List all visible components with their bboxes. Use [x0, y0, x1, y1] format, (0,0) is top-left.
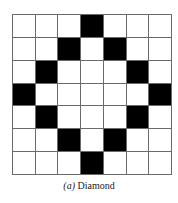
filled-cell [127, 61, 150, 84]
filled-cell [127, 106, 150, 129]
filled-cell [104, 38, 127, 61]
filled-cell [58, 38, 81, 61]
empty-cell [36, 152, 59, 175]
empty-cell [58, 15, 81, 38]
filled-cell [58, 129, 81, 152]
caption-text: Diamond [77, 180, 114, 191]
empty-cell [149, 152, 172, 175]
empty-cell [13, 152, 36, 175]
caption-label: (a) [63, 180, 75, 191]
empty-cell [81, 129, 104, 152]
empty-cell [58, 61, 81, 84]
empty-cell [36, 84, 59, 107]
empty-cell [104, 15, 127, 38]
empty-cell [149, 15, 172, 38]
empty-cell [13, 129, 36, 152]
filled-cell [36, 61, 59, 84]
empty-cell [13, 15, 36, 38]
empty-cell [104, 152, 127, 175]
filled-cell [81, 15, 104, 38]
diamond-grid [12, 14, 172, 175]
empty-cell [36, 129, 59, 152]
filled-cell [104, 129, 127, 152]
empty-cell [13, 38, 36, 61]
empty-cell [149, 106, 172, 129]
empty-cell [81, 38, 104, 61]
empty-cell [58, 152, 81, 175]
empty-cell [104, 106, 127, 129]
empty-cell [81, 84, 104, 107]
empty-cell [36, 15, 59, 38]
empty-cell [13, 106, 36, 129]
figure-caption: (a) Diamond [0, 180, 178, 191]
empty-cell [127, 38, 150, 61]
empty-cell [127, 129, 150, 152]
filled-cell [13, 84, 36, 107]
empty-cell [127, 84, 150, 107]
empty-cell [149, 61, 172, 84]
filled-cell [149, 84, 172, 107]
empty-cell [127, 152, 150, 175]
empty-cell [104, 84, 127, 107]
empty-cell [58, 106, 81, 129]
empty-cell [149, 38, 172, 61]
filled-cell [36, 106, 59, 129]
empty-cell [81, 61, 104, 84]
empty-cell [36, 38, 59, 61]
empty-cell [81, 106, 104, 129]
empty-cell [149, 129, 172, 152]
empty-cell [58, 84, 81, 107]
empty-cell [13, 61, 36, 84]
empty-cell [127, 15, 150, 38]
filled-cell [81, 152, 104, 175]
empty-cell [104, 61, 127, 84]
